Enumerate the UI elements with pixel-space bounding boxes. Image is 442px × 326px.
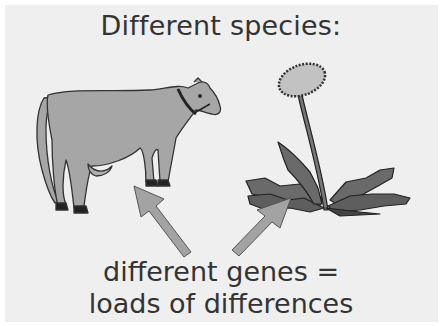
caption-line-2: loads of differences: [0, 288, 442, 320]
caption-line-1: different genes =: [0, 256, 442, 288]
arrow-to-cow-icon: [134, 186, 191, 257]
cow-icon: [37, 78, 221, 213]
dandelion-icon: [246, 58, 410, 216]
